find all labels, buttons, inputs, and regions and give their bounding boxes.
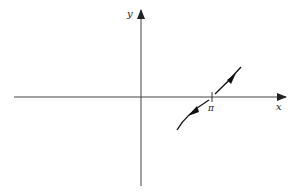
curve-lower-branch bbox=[177, 100, 209, 130]
arrow-up-right-icon bbox=[227, 73, 236, 84]
graph-diagram: y x π bbox=[0, 0, 301, 194]
y-axis-label: y bbox=[127, 8, 133, 19]
graph-svg bbox=[0, 0, 301, 194]
pi-tick-label: π bbox=[208, 103, 214, 113]
arrow-down-left-icon bbox=[188, 106, 199, 116]
x-axis-label: x bbox=[276, 101, 282, 112]
